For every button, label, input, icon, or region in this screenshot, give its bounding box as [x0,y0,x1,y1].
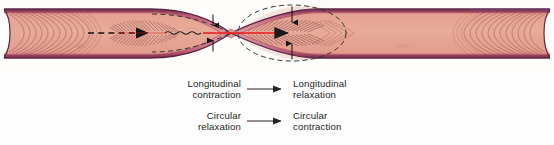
legend-circular-contraction-line2: contraction [293,121,371,133]
legend-longitudinal-contraction-line1: Longitudinal [187,78,241,89]
legend-longitudinal-relaxation-label: Longitudinal relaxation [293,78,371,101]
legend-longitudinal-contraction-line2: contraction [163,89,241,101]
print-texture-right [394,44,410,48]
serosa-sheen-center [300,10,330,11]
legend-circular-relaxation-line1: Circular [207,110,241,121]
legend-arrow-circular-icon [246,115,288,127]
legend-row-longitudinal: Longitudinal contraction Longitudinal re… [163,74,371,104]
legend-panel: Longitudinal contraction Longitudinal re… [0,70,554,145]
print-texture-left [75,44,85,47]
diagram-panel [0,0,554,72]
tube-diagram-svg [0,0,554,72]
legend-circular-contraction-line1: Circular [293,110,327,121]
legend-circular-relaxation-label: Circular relaxation [163,110,241,133]
legend-longitudinal-relaxation-line1: Longitudinal [293,78,347,89]
legend-longitudinal-relaxation-line2: relaxation [293,89,371,101]
legend-arrow-longitudinal-icon [246,83,288,95]
legend-longitudinal-contraction-label: Longitudinal contraction [163,78,241,101]
legend-circular-contraction-label: Circular contraction [293,110,371,133]
legend-circular-relaxation-line2: relaxation [163,121,241,133]
peristalsis-figure: Longitudinal contraction Longitudinal re… [0,0,554,145]
legend-row-circular: Circular relaxation Circular contraction [163,106,371,136]
